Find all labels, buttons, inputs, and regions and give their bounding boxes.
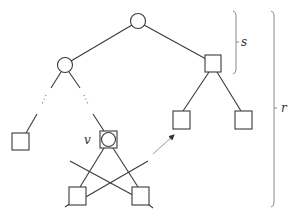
label-v: v (84, 133, 91, 147)
right-internal-node (205, 55, 221, 72)
label-r: r (281, 101, 288, 115)
right-left-leaf-node (173, 111, 190, 129)
right-right-leaf-node (235, 111, 252, 129)
edge-v-bottom-right (113, 148, 138, 187)
edge-right-to-leaf1 (183, 72, 209, 111)
ellipsis-left (41, 95, 46, 106)
edge-left-branch-lower (26, 114, 37, 133)
root-node (131, 14, 146, 29)
left-leaf-node (12, 133, 29, 150)
edge-left-branch-upper (51, 72, 61, 88)
edge-root-left (71, 25, 132, 61)
bottom-right-node (132, 187, 149, 205)
label-s: s (241, 35, 247, 49)
edge-root-right (144, 25, 206, 59)
ellipsis-right (84, 95, 89, 106)
edge-right-branch-lower (93, 114, 104, 131)
bracket-r (271, 11, 274, 207)
edge-right-to-leaf2 (217, 72, 241, 111)
bottom-left-node (69, 187, 86, 205)
arrow-to-right-leaf (153, 135, 174, 154)
bracket-s (233, 11, 236, 74)
tree-diagram: v s r (0, 0, 296, 217)
edge-v-bottom-left (80, 148, 104, 187)
left-internal-node (58, 58, 73, 73)
edge-right-branch-upper (69, 72, 80, 88)
v-node-circle (102, 133, 116, 147)
